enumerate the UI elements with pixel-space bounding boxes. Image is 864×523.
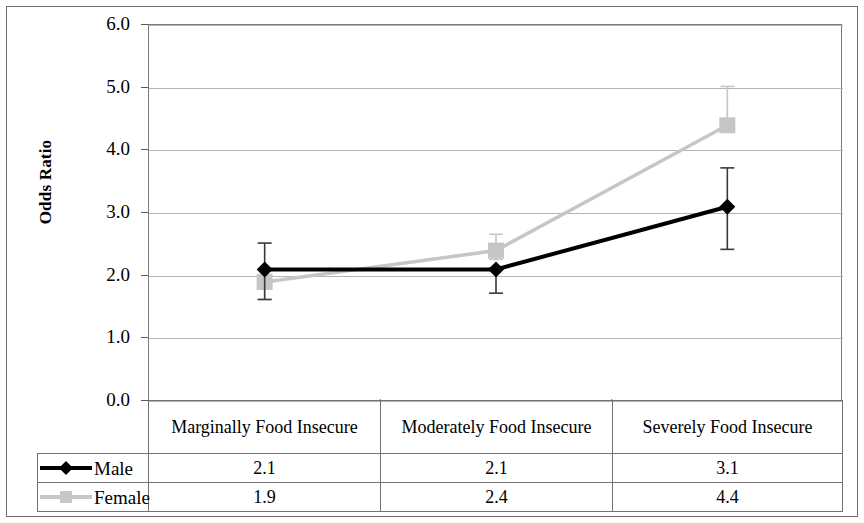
table-corner-cell bbox=[38, 401, 149, 454]
cell-male-0: 2.1 bbox=[149, 454, 381, 483]
y-tick-mark bbox=[141, 24, 148, 25]
data-point-marker bbox=[719, 117, 735, 133]
data-point-marker bbox=[719, 199, 735, 215]
cell-female-1: 2.4 bbox=[381, 483, 613, 512]
y-tick-mark bbox=[141, 212, 148, 213]
chart-figure: Odds Ratio 6.05.04.03.02.01.00.0 Margina… bbox=[0, 0, 864, 523]
cell-female-2: 4.4 bbox=[613, 483, 843, 512]
y-tick-mark bbox=[141, 337, 148, 338]
column-header-2: Severely Food Insecure bbox=[613, 401, 843, 454]
cell-male-1: 2.1 bbox=[381, 454, 613, 483]
series-canvas bbox=[149, 25, 843, 401]
data-table-wrap: Marginally Food Insecure Moderately Food… bbox=[37, 400, 842, 510]
cell-female-0: 1.9 bbox=[149, 483, 381, 512]
data-point-marker bbox=[488, 243, 504, 259]
legend-item-male[interactable]: Male bbox=[38, 454, 149, 483]
legend-item-female[interactable]: Female bbox=[38, 483, 149, 512]
y-tick-label: 5.0 bbox=[70, 77, 130, 96]
square-marker-icon bbox=[38, 488, 94, 506]
y-tick-label: 2.0 bbox=[70, 265, 130, 284]
cell-male-2: 3.1 bbox=[613, 454, 843, 483]
data-table: Marginally Food Insecure Moderately Food… bbox=[37, 400, 843, 512]
column-header-1: Moderately Food Insecure bbox=[381, 401, 613, 454]
plot-area bbox=[148, 24, 842, 400]
y-tick-label: 6.0 bbox=[70, 14, 130, 33]
y-tick-label: 3.0 bbox=[70, 202, 130, 221]
table-row: Female 1.9 2.4 4.4 bbox=[38, 483, 843, 512]
legend-label-male: Male bbox=[94, 459, 133, 478]
y-tick-label: 1.0 bbox=[70, 327, 130, 346]
legend-label-female: Female bbox=[94, 488, 150, 507]
data-point-marker bbox=[488, 261, 504, 277]
table-row: Male 2.1 2.1 3.1 bbox=[38, 454, 843, 483]
table-header-row: Marginally Food Insecure Moderately Food… bbox=[38, 401, 843, 454]
y-axis-title: Odds Ratio bbox=[36, 122, 56, 242]
y-tick-mark bbox=[141, 87, 148, 88]
y-tick-mark bbox=[141, 275, 148, 276]
y-tick-mark bbox=[141, 149, 148, 150]
diamond-marker-icon bbox=[38, 459, 94, 477]
y-tick-label: 4.0 bbox=[70, 139, 130, 158]
column-header-0: Marginally Food Insecure bbox=[149, 401, 381, 454]
